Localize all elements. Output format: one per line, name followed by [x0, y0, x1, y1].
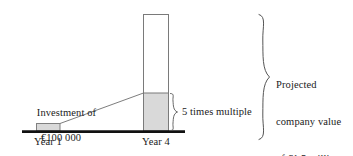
projected-label-line2: company value [276, 116, 352, 128]
right-curly-brace-small-icon [171, 94, 178, 131]
investment-label-line1: Investment of [37, 107, 96, 118]
right-curly-brace-large-icon [259, 15, 270, 140]
year4-axis-label: Year 4 [130, 136, 182, 148]
year1-axis-label: Year 1 [22, 136, 74, 148]
projected-label-line1: Projected [276, 79, 352, 91]
multiple-annotation-label: 5 times multiple [182, 106, 252, 118]
projected-label-line3: of €1.5 million [276, 153, 352, 156]
year4-bar-shaded-segment [144, 93, 169, 131]
projected-value-annotation: Projected company value of €1.5 million [276, 54, 352, 156]
diagram-canvas: Investment of €100 000 Year 1 Year 4 5 t… [0, 0, 353, 156]
